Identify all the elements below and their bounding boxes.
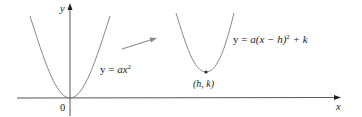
shifted-eq-rhs-post: + k bbox=[290, 33, 308, 45]
y-axis bbox=[68, 3, 73, 116]
shift-arrow bbox=[122, 38, 157, 50]
shifted-parabola-curve bbox=[176, 13, 234, 72]
origin-label: 0 bbox=[60, 103, 65, 114]
shift-arrow-head-icon bbox=[150, 38, 158, 43]
x-axis-arrow-icon bbox=[334, 95, 341, 100]
vertex-dot bbox=[204, 70, 207, 73]
shifted-eq-lhs: y bbox=[233, 33, 239, 45]
vertex-label: (h, k) bbox=[193, 79, 214, 89]
base-equation-label: y = ax2 bbox=[100, 64, 131, 75]
shifted-equation-label: y = a(x − h)2 + k bbox=[233, 34, 308, 45]
base-eq-lhs: y bbox=[100, 63, 106, 75]
shifted-eq-rhs-pre: a(x − h) bbox=[250, 33, 286, 45]
y-axis-arrow-icon bbox=[68, 3, 73, 10]
diagram-canvas bbox=[0, 0, 362, 117]
base-eq-rhs: ax bbox=[117, 63, 127, 75]
base-eq-equals: = bbox=[108, 63, 114, 75]
shifted-eq-equals: = bbox=[241, 33, 247, 45]
x-axis bbox=[17, 95, 341, 100]
x-axis-label: x bbox=[336, 102, 341, 113]
base-eq-exponent: 2 bbox=[128, 63, 132, 71]
y-axis-label: y bbox=[60, 4, 65, 15]
